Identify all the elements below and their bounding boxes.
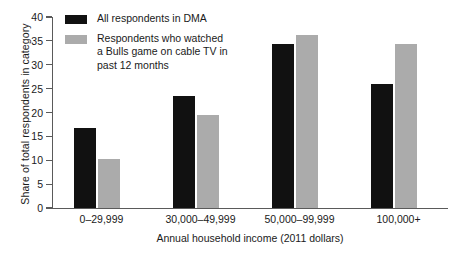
y-axis-tick-label-wrap: 25: [0, 84, 43, 95]
y-axis-tick-label-wrap: 40: [0, 12, 43, 23]
bar: [395, 44, 417, 208]
y-axis-tick-label-wrap: 15: [0, 131, 43, 142]
y-axis-tick-label: 0: [1, 203, 43, 214]
x-axis-tick-label: 50,000–99,999: [250, 213, 349, 225]
y-axis-tick-label: 10: [1, 155, 43, 166]
legend-entry-all-respondents: All respondents in DMA: [65, 12, 275, 26]
bar: [74, 128, 96, 208]
bar: [98, 159, 120, 208]
bar-chart: Share of total respondents in category 0…: [0, 0, 454, 257]
legend-entry-bulls-viewers: Respondents who watched a Bulls game on …: [65, 32, 275, 73]
legend-swatch-icon-light: [65, 35, 87, 44]
bar: [197, 115, 219, 208]
x-axis-tick-label: 100,000+: [349, 213, 448, 225]
y-axis-tick-label: 35: [1, 36, 43, 47]
y-axis-tick-label-wrap: 10: [0, 155, 43, 166]
y-axis-tick-label: 30: [1, 60, 43, 71]
x-axis-line: [52, 208, 448, 209]
y-axis-tick-label: 15: [1, 131, 43, 142]
x-axis-tick-label: 30,000–49,999: [151, 213, 250, 225]
x-axis-tick-label: 0–29,999: [52, 213, 151, 225]
y-axis-tick-label: 20: [1, 108, 43, 119]
bar: [296, 35, 318, 208]
y-axis-tick-label-wrap: 35: [0, 36, 43, 47]
y-axis-tick-label: 25: [1, 84, 43, 95]
y-axis-tick-label-wrap: 20: [0, 108, 43, 119]
bar: [371, 84, 393, 208]
x-axis-title: Annual household income (2011 dollars): [52, 232, 448, 244]
y-axis-tick-label-wrap: 0: [0, 203, 43, 214]
y-axis-tick-label-wrap: 30: [0, 60, 43, 71]
y-axis-tick-label: 40: [1, 12, 43, 23]
legend-swatch-icon-dark: [65, 15, 87, 24]
y-axis-tick-label-wrap: 5: [0, 179, 43, 190]
legend-label: Respondents who watched a Bulls game on …: [97, 32, 275, 73]
legend-label: All respondents in DMA: [97, 12, 275, 26]
legend: All respondents in DMA Respondents who w…: [65, 12, 275, 78]
y-axis-tick-label: 5: [1, 179, 43, 190]
bar: [173, 96, 195, 208]
